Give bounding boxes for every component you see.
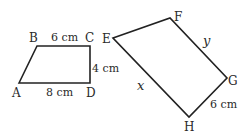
side-eh-variable: x [137,78,145,93]
vertex-label-b: B [29,31,38,45]
side-fg-variable: y [202,33,211,48]
side-gh-length: 6 cm [210,98,238,111]
vertex-label-d: D [86,86,96,100]
vertex-label-g: G [228,74,238,88]
diagram-canvas: A B C D 6 cm 4 cm 8 cm E F G H y x 6 cm [0,0,247,139]
quadrilateral-abcd [19,46,90,83]
vertex-label-f: F [174,10,182,24]
vertex-label-c: C [85,31,94,45]
side-bc-length: 6 cm [51,31,79,44]
side-ad-length: 8 cm [46,86,74,99]
side-cd-length: 4 cm [92,62,120,75]
vertex-label-h: H [184,120,194,134]
vertex-label-e: E [102,32,111,46]
vertex-label-a: A [11,86,21,100]
